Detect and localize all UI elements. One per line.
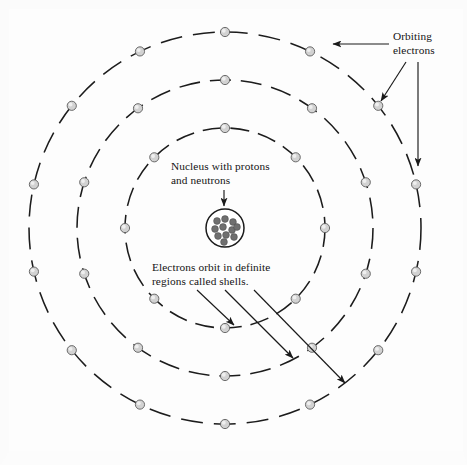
electron [220, 75, 229, 84]
electron-highlight [375, 103, 379, 107]
electron-highlight [31, 268, 35, 272]
shells-leader-line-2 [225, 290, 293, 358]
electron [135, 400, 144, 409]
electron [220, 371, 229, 380]
electron [291, 153, 300, 162]
electron [374, 346, 383, 355]
nucleon [220, 224, 227, 231]
electron [29, 267, 38, 276]
nucleon [222, 216, 229, 223]
electron [80, 178, 89, 187]
electron-highlight [151, 154, 155, 158]
electron [411, 180, 420, 189]
nucleon [234, 224, 241, 231]
electron [320, 223, 329, 232]
electron-highlight [31, 181, 35, 185]
electron-highlight [122, 225, 126, 229]
electron [133, 104, 142, 113]
label-nucleus: Nucleus with protons and neutrons [171, 160, 270, 187]
electron-highlight [137, 401, 141, 405]
nucleon [231, 234, 238, 241]
electron [220, 27, 229, 36]
electron-highlight [222, 125, 226, 129]
electron-highlight [222, 77, 226, 81]
electron-highlight [69, 347, 73, 351]
electron [220, 323, 229, 332]
electron-highlight [81, 271, 85, 275]
electron [133, 343, 142, 352]
electron-highlight [413, 181, 417, 185]
nucleon [215, 233, 222, 240]
electron [361, 178, 370, 187]
electron [374, 101, 383, 110]
electron [220, 123, 229, 132]
electron [305, 400, 314, 409]
electron-highlight [81, 179, 85, 183]
electron [29, 180, 38, 189]
electron [67, 101, 76, 110]
electron [361, 269, 370, 278]
electron [120, 223, 129, 232]
atom-svg [0, 0, 467, 465]
electron [80, 269, 89, 278]
label-orbiting-electrons: Orbiting electrons [393, 30, 435, 57]
electron-highlight [375, 347, 379, 351]
electron [305, 47, 314, 56]
electron-highlight [293, 154, 297, 158]
nucleus-group [206, 209, 244, 247]
label-shells: Electrons orbit in definite regions call… [152, 261, 270, 288]
electron-highlight [222, 421, 226, 425]
electron [411, 267, 420, 276]
electron [67, 346, 76, 355]
nucleon [221, 239, 228, 246]
nucleon [214, 218, 221, 225]
electron-highlight [293, 295, 297, 299]
electron-highlight [222, 373, 226, 377]
electron [307, 343, 316, 352]
electron-highlight [222, 29, 226, 33]
electron [291, 294, 300, 303]
electron-highlight [307, 48, 311, 52]
electron-highlight [137, 48, 141, 52]
electron [135, 47, 144, 56]
electron-highlight [413, 268, 417, 272]
electron-highlight [135, 345, 139, 349]
figure-caption [0, 454, 467, 465]
electron [220, 419, 229, 428]
electron-highlight [222, 325, 226, 329]
electron-highlight [69, 103, 73, 107]
nucleon [212, 226, 219, 233]
electron-highlight [151, 295, 155, 299]
electron-highlight [363, 271, 367, 275]
electron-highlight [135, 105, 139, 109]
orbiting-leader-line-2 [381, 62, 406, 101]
electron-highlight [363, 179, 367, 183]
electron-highlight [307, 401, 311, 405]
electron [307, 104, 316, 113]
nucleon [223, 232, 230, 239]
atom-diagram: Orbiting electrons Nucleus with protons … [0, 0, 467, 465]
electron-highlight [322, 225, 326, 229]
electron-highlight [309, 105, 313, 109]
electron [150, 153, 159, 162]
electron [150, 294, 159, 303]
shells-leader-line-1 [197, 290, 234, 325]
